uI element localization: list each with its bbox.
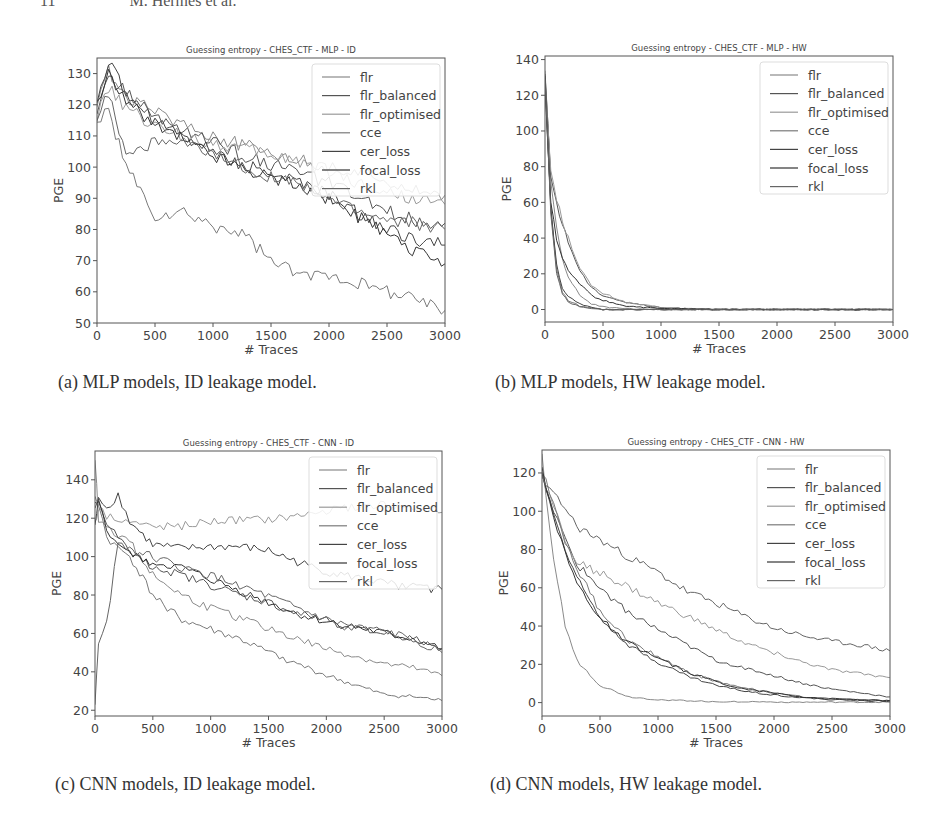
- legend-label: flr_optimised: [805, 499, 886, 514]
- caption-d: (d) CNN models, HW leakage model.: [490, 774, 762, 795]
- chart-d: Guessing entropy - CHES_CTF - CNN - HW05…: [0, 0, 948, 830]
- legend-label: focal_loss: [805, 555, 865, 570]
- legend-label: cer_loss: [805, 536, 855, 551]
- y-tick-label: 60: [520, 580, 536, 595]
- y-axis-label: PGE: [496, 570, 511, 595]
- x-tick-label: 0: [538, 721, 546, 736]
- legend-label: flr: [805, 462, 819, 477]
- y-tick-label: 120: [512, 465, 536, 480]
- legend-label: flr_balanced: [805, 480, 881, 495]
- x-tick-label: 3000: [874, 721, 906, 736]
- legend-label: cce: [805, 517, 827, 532]
- x-tick-label: 1000: [642, 721, 674, 736]
- caption-c: (c) CNN models, ID leakage model.: [55, 774, 315, 795]
- x-axis-label: # Traces: [689, 735, 743, 750]
- y-tick-label: 40: [520, 619, 536, 634]
- y-tick-label: 0: [528, 695, 536, 710]
- legend: flrflr_balancedflr_optimisedccecer_lossf…: [757, 456, 886, 588]
- legend-label: rkl: [805, 573, 821, 588]
- caption-b: (b) MLP models, HW leakage model.: [495, 372, 765, 393]
- y-tick-label: 20: [520, 657, 536, 672]
- x-tick-label: 1500: [700, 721, 732, 736]
- x-tick-label: 2000: [758, 721, 790, 736]
- chart-title: Guessing entropy - CHES_CTF - CNN - HW: [627, 437, 805, 447]
- x-tick-label: 500: [588, 721, 612, 736]
- caption-a: (a) MLP models, ID leakage model.: [58, 372, 317, 393]
- y-tick-label: 80: [520, 542, 536, 557]
- figure-d-cnn-hw: Guessing entropy - CHES_CTF - CNN - HW05…: [0, 0, 948, 830]
- x-tick-label: 2500: [816, 721, 848, 736]
- y-tick-label: 100: [512, 504, 536, 519]
